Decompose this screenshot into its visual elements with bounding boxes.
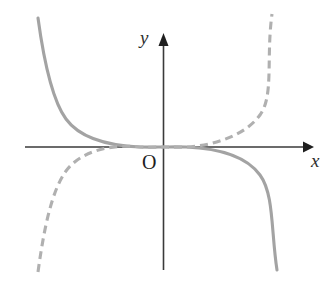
x-axis-label: x xyxy=(311,151,319,170)
dashed-curve-increasing xyxy=(38,14,272,272)
graph-figure: y x O xyxy=(0,0,332,284)
coordinate-plot xyxy=(0,0,332,284)
origin-label: O xyxy=(142,152,156,172)
solid-curve-decreasing xyxy=(38,18,277,270)
y-axis-label: y xyxy=(140,28,148,47)
y-axis-arrowhead xyxy=(159,33,169,46)
